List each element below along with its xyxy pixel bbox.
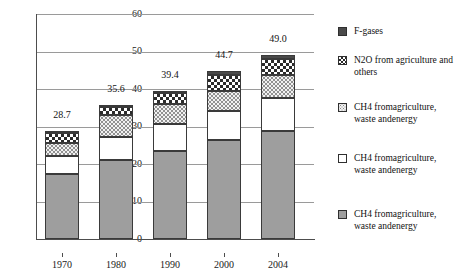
bar-segment-ch4-white — [45, 156, 79, 174]
bar-segment-fgases — [153, 91, 187, 93]
x-axis-tick-mark — [224, 253, 225, 257]
bar-segment-n2o — [45, 133, 79, 143]
legend-swatch-dark-gray-icon — [338, 27, 347, 36]
legend-swatch-checkerboard-icon — [338, 56, 347, 65]
bar-segment-ch4-white — [153, 124, 187, 151]
legend-swatch-white-icon — [338, 154, 347, 163]
x-axis-line — [36, 239, 315, 240]
legend-swatch-solid-gray-icon — [338, 210, 347, 219]
x-axis-tick-mark — [116, 253, 117, 257]
bar-segment-fgases — [261, 55, 295, 59]
bar-segment-ch4-gray — [99, 160, 133, 239]
legend-label: N2O from agriculture and others — [354, 55, 460, 78]
bar-segment-ch4-dotted — [207, 91, 241, 111]
bar-segment-n2o — [153, 93, 187, 104]
bar-total-label: 49.0 — [251, 34, 305, 44]
gridline — [36, 52, 314, 53]
y-axis-line — [36, 14, 37, 240]
plot-area: 28.7 1970 35.6 1980 39.4 — [36, 14, 314, 239]
bar-segment-n2o — [207, 75, 241, 91]
x-axis-tick-mark — [62, 253, 63, 257]
bar-segment-ch4-gray — [207, 140, 241, 239]
x-axis-tick-mark — [170, 253, 171, 257]
legend-swatch-light-dotted-icon — [338, 103, 347, 112]
bar-segment-ch4-white — [261, 98, 295, 131]
legend-label: F-gases — [354, 26, 460, 38]
legend-label: CH4 fromagriculture, waste andenergy — [354, 102, 460, 125]
bar-total-label: 35.6 — [89, 84, 143, 94]
bar-segment-ch4-dotted — [45, 143, 79, 156]
bar-segment-fgases — [45, 131, 79, 133]
x-axis-tick-label: 1980 — [89, 260, 143, 270]
bar-segment-fgases — [207, 71, 241, 75]
gridline — [36, 14, 314, 15]
bar-segment-ch4-dotted — [153, 104, 187, 124]
bar-segment-ch4-gray — [45, 174, 79, 239]
bar-segment-ch4-dotted — [261, 75, 295, 98]
legend-label: CH4 fromagriculture, waste andenergy — [354, 153, 460, 176]
x-axis-tick-label: 1970 — [35, 260, 89, 270]
bar-segment-ch4-white — [99, 137, 133, 160]
x-axis-tick-mark — [278, 253, 279, 257]
bar-segment-ch4-gray — [153, 151, 187, 239]
bar-segment-n2o — [99, 107, 133, 115]
bar-segment-fgases — [99, 105, 133, 107]
x-axis-tick-label: 2004 — [251, 260, 305, 270]
bar-segment-ch4-dotted — [99, 115, 133, 136]
bar-total-label: 44.7 — [197, 50, 251, 60]
bar-segment-ch4-white — [207, 111, 241, 140]
bar-total-label: 28.7 — [35, 110, 89, 120]
bar-segment-n2o — [261, 59, 295, 75]
x-axis-tick-label: 2000 — [197, 260, 251, 270]
legend-label: CH4 fromagriculture, waste andenergy — [354, 209, 460, 232]
bar-segment-ch4-gray — [261, 131, 295, 239]
x-axis-tick-label: 1990 — [143, 260, 197, 270]
bar-total-label: 39.4 — [143, 70, 197, 80]
